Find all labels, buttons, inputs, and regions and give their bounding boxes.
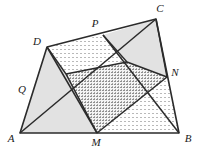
label-point-Q: Q: [18, 83, 26, 95]
geometry-canvas: D P C Q N A M B: [0, 0, 199, 148]
label-point-C: C: [156, 2, 164, 14]
label-point-D: D: [32, 35, 41, 47]
label-point-N: N: [170, 66, 179, 78]
label-point-B: B: [185, 132, 192, 144]
label-point-M: M: [90, 136, 101, 148]
label-point-P: P: [91, 17, 99, 29]
label-point-A: A: [7, 132, 15, 144]
geometry-figure: D P C Q N A M B: [0, 0, 199, 148]
